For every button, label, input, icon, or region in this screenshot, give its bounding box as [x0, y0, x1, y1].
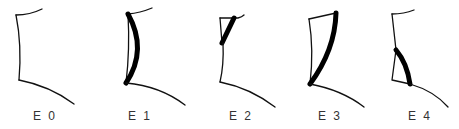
e4-top-curve	[392, 10, 414, 14]
label-e0: E 0	[33, 109, 57, 123]
e0-top-curve	[16, 9, 42, 15]
panel-e2: E 2	[220, 15, 275, 123]
e2-highlighted-edge	[222, 18, 234, 43]
e0-bottom-curve	[19, 80, 74, 104]
label-e2: E 2	[229, 109, 253, 123]
e3-highlighted-edge	[310, 13, 336, 84]
panel-e3: E 3	[309, 13, 364, 123]
e3-bottom-curve	[310, 84, 364, 107]
e2-bottom-curve	[220, 82, 275, 107]
e4-bottom-curve	[410, 84, 448, 107]
panel-e0: E 0	[16, 9, 74, 123]
e4-upper-vertical	[392, 14, 396, 50]
e4-highlighted-edge	[396, 50, 410, 84]
label-e4: E 4	[408, 109, 432, 123]
e3-top-edge	[309, 13, 336, 19]
e1-top-curve	[128, 8, 152, 14]
e1-bottom-curve	[126, 83, 185, 105]
e3-left-edge	[309, 19, 312, 84]
e0-left-edge	[16, 15, 20, 80]
e2-vertical-edge	[220, 43, 223, 82]
edge-diagram: E 0 E 1 E 2 E 3 E 4	[0, 0, 459, 129]
label-e3: E 3	[318, 109, 342, 123]
label-e1: E 1	[128, 109, 152, 123]
e1-left-edge	[126, 14, 129, 83]
panel-e1: E 1	[126, 8, 185, 123]
panel-e4: E 4	[392, 10, 448, 123]
